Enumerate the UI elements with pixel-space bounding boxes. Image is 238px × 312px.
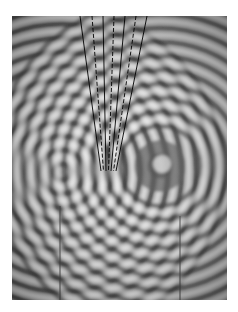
interference-photo [12,16,227,300]
interference-pattern [12,16,227,300]
